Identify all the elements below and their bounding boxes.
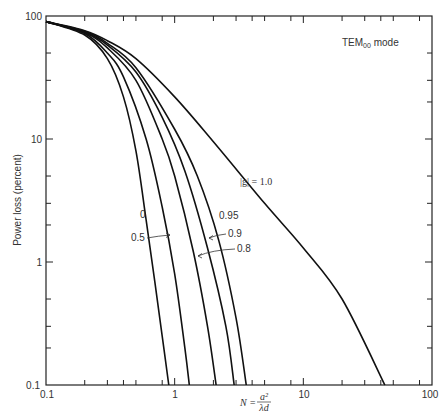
plot-frame [46,16,432,385]
g-0.95-label: 0.95 [219,210,239,221]
curve-0.8 [46,22,216,385]
curve-1.0 [46,22,385,385]
x-label-denominator: λd [258,402,269,413]
g-0.5-label: 0.5 [131,232,145,243]
y-tick-100: 100 [25,11,42,22]
x-label-numerator: a² [260,391,269,402]
mode-label: TEM00 mode [342,37,399,49]
x-label-n: N = [239,397,256,408]
y-tick-10: 10 [31,134,43,145]
x-tick-1: 1 [172,389,178,400]
curves [46,22,385,385]
curve-0.95 [46,22,246,385]
x-tick-10: 10 [298,389,310,400]
x-tick-100: 100 [422,389,439,400]
curve-0.9 [46,22,234,385]
g-1.0-label: |g| = 1.0 [240,176,272,187]
g-0.9-label: 0.9 [228,228,242,239]
power-loss-chart: 100 10 1 0.1 0.1 1 10 100 Power loss (pe… [0,0,446,417]
y-tick-1: 1 [36,257,42,268]
curve-0.5 [46,22,189,385]
curve-0 [46,22,169,385]
x-tick-0.1: 0.1 [40,389,54,400]
axis-ticks [46,16,432,385]
g-0-label: 0 [140,209,146,220]
x-axis-label: N = a² λd [239,391,271,413]
y-tick-0.1: 0.1 [26,380,40,391]
y-axis-label: Power loss (percent) [12,154,23,246]
g-0.8-label: 0.8 [237,243,251,254]
